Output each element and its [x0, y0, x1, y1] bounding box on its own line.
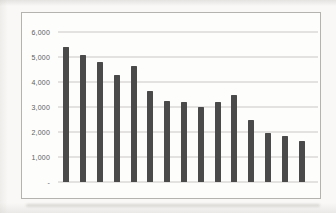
bar	[231, 95, 237, 183]
bar	[181, 102, 187, 182]
bar	[282, 136, 288, 182]
bar	[147, 91, 153, 182]
bar-chart: 6,0005,0004,0003,0002,0001,000-	[21, 12, 321, 199]
bar	[265, 133, 271, 182]
bar	[299, 141, 305, 182]
bar-series	[58, 32, 310, 182]
y-axis-tick-label: 1,000	[31, 154, 50, 161]
y-axis: 6,0005,0004,0003,0002,0001,000-	[22, 32, 53, 182]
bar	[63, 47, 69, 182]
y-axis-tick-label: 6,000	[31, 29, 50, 36]
bar	[248, 120, 254, 183]
bar	[164, 101, 170, 182]
y-axis-tick-label: 4,000	[31, 79, 50, 86]
bar	[131, 66, 137, 182]
y-axis-tick-label: 3,000	[31, 104, 50, 111]
bar	[114, 75, 120, 183]
scan-shadow-artifact	[26, 204, 320, 207]
y-axis-tick-label: 5,000	[31, 54, 50, 61]
bar	[80, 55, 86, 183]
bar	[215, 102, 221, 182]
bar	[198, 107, 204, 182]
y-axis-tick-label: -	[47, 179, 50, 186]
y-axis-tick-label: 2,000	[31, 129, 50, 136]
scanned-page: 6,0005,0004,0003,0002,0001,000-	[0, 0, 336, 213]
bar	[97, 62, 103, 182]
